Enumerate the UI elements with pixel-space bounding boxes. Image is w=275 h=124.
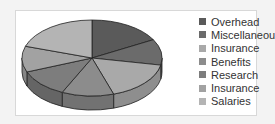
- legend-item: Research: [199, 68, 275, 81]
- legend-label: Insurance: [211, 82, 259, 94]
- legend-item: Insurance: [199, 81, 275, 94]
- legend-label: Salaries: [211, 95, 251, 107]
- legend-label: Benefits: [211, 56, 251, 68]
- legend-label: Insurance: [211, 42, 259, 54]
- legend-swatch: [199, 58, 206, 65]
- legend-item: Overhead: [199, 15, 275, 28]
- legend-swatch: [199, 98, 206, 105]
- legend-swatch: [199, 45, 206, 52]
- legend-swatch: [199, 85, 206, 92]
- chart-card: Overhead Miscellaneous Insurance Benefit…: [15, 10, 257, 116]
- legend-swatch: [199, 18, 206, 25]
- legend-item: Insurance: [199, 42, 275, 55]
- legend-swatch: [199, 31, 206, 38]
- legend-item: Salaries: [199, 95, 275, 108]
- legend-item: Benefits: [199, 55, 275, 68]
- pie-chart: [19, 13, 169, 115]
- legend: Overhead Miscellaneous Insurance Benefit…: [199, 15, 275, 108]
- legend-label: Overhead: [211, 16, 259, 28]
- legend-swatch: [199, 71, 206, 78]
- legend-label: Miscellaneous: [211, 29, 275, 41]
- legend-item: Miscellaneous: [199, 28, 275, 41]
- legend-label: Research: [211, 69, 258, 81]
